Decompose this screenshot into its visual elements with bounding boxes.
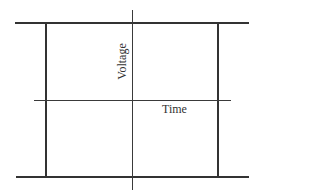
voltage-axis-label: Voltage — [115, 39, 130, 85]
voltage-axis — [132, 10, 133, 190]
time-axis-label: Time — [162, 102, 187, 117]
